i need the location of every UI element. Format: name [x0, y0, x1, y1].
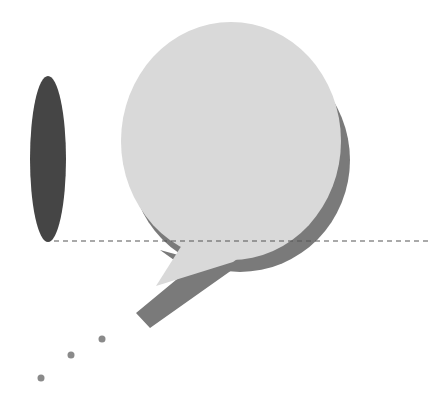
dot — [38, 375, 45, 382]
dark-ellipse — [30, 76, 66, 242]
dot — [68, 352, 75, 359]
speech-bubble-illustration — [0, 0, 447, 405]
dot — [99, 336, 106, 343]
